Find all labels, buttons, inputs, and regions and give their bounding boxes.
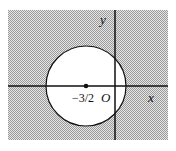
center-point (84, 84, 89, 89)
x-axis-label: x (147, 90, 154, 105)
origin-label: O (101, 90, 111, 105)
diagram: y x O −3/2 (0, 0, 176, 151)
y-axis-label: y (98, 12, 106, 27)
center-label: −3/2 (72, 91, 94, 105)
